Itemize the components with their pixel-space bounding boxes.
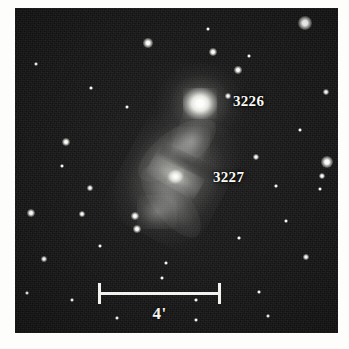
label-ngc3227: 3227 — [213, 169, 244, 186]
figure-plate: 3226 3227 4' — [0, 0, 349, 349]
scale-bar: 4' — [98, 283, 221, 305]
sky-field: 3226 3227 4' — [15, 8, 338, 333]
scale-bar-cap-right — [218, 283, 221, 304]
scale-bar-label: 4' — [98, 304, 221, 324]
scale-bar-rule — [98, 292, 221, 295]
label-ngc3226: 3226 — [233, 93, 264, 110]
